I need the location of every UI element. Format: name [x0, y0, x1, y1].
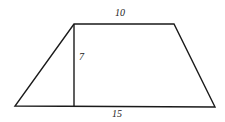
height-label: 7 [79, 51, 85, 62]
bottom-base-label: 15 [112, 108, 122, 119]
trapezoid-outline [15, 24, 215, 107]
top-base-label: 10 [115, 7, 125, 18]
trapezoid-diagram: 10 7 15 [0, 0, 225, 122]
